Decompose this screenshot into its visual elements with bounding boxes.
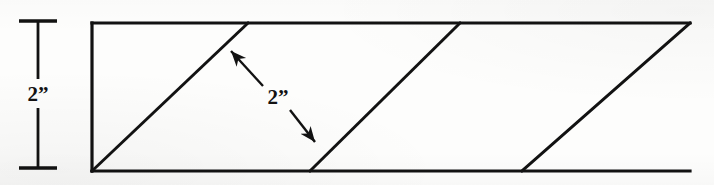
diagonal-3 [522, 23, 690, 171]
diagonal-1 [92, 23, 248, 171]
diagonal-2 [310, 23, 460, 171]
geometry-figure: 2” 2” [0, 0, 714, 185]
height-dimension-label: 2” [28, 82, 49, 106]
slant-dimension-lower-leader [290, 110, 315, 142]
strip-outline-group [92, 23, 690, 171]
diagonal-lines-group [92, 23, 690, 171]
slant-dimension-label: 2” [268, 85, 289, 109]
slant-dimension-upper-leader [231, 51, 263, 86]
diagram-canvas: 2” 2” [0, 0, 714, 185]
height-dimension-group: 2” [19, 21, 57, 168]
slant-dimension-group: 2” [231, 51, 315, 142]
